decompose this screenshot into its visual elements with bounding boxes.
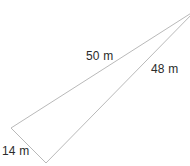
triangle-shape	[0, 0, 190, 166]
side-label-upper: 50 m	[86, 49, 113, 63]
triangle-outline	[11, 10, 190, 163]
side-label-lower: 48 m	[151, 62, 178, 76]
side-label-short: 14 m	[2, 144, 29, 158]
triangle-figure: 50 m 48 m 14 m	[0, 0, 190, 166]
